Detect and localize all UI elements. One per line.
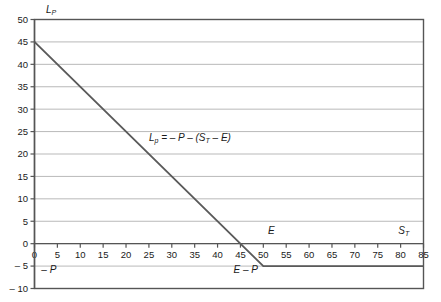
x-tick-label-35: 35 [189, 249, 200, 260]
x-tick-label-65: 65 [327, 249, 338, 260]
x-tick-label-60: 60 [304, 249, 315, 260]
annotation-premium-label: – P [40, 264, 56, 275]
x-tick-label-15: 15 [98, 249, 109, 260]
x-tick-label-85: 85 [418, 249, 429, 260]
x-tick-label-70: 70 [350, 249, 361, 260]
x-tick-label-50: 50 [258, 249, 269, 260]
x-tick-label-20: 20 [121, 249, 132, 260]
y-tick-label-40: 40 [17, 59, 28, 70]
x-tick-label-55: 55 [281, 249, 292, 260]
x-tick-label-80: 80 [395, 249, 406, 260]
y-tick-label-15: 15 [17, 171, 28, 182]
y-tick-label--5: – 5 [15, 260, 28, 271]
y-tick-label-0: 0 [23, 238, 28, 249]
annotation-strike-marker: E [268, 225, 275, 236]
y-tick-label-20: 20 [17, 148, 28, 159]
annotation-breakeven-label: E – P [234, 264, 259, 275]
chart-canvas: 0510152025303540455055606570758085 – 10–… [0, 0, 441, 302]
x-tick-label-5: 5 [55, 249, 60, 260]
x-tick-label-10: 10 [75, 249, 86, 260]
y-tick-label-25: 25 [17, 126, 28, 137]
x-tick-label-75: 75 [372, 249, 383, 260]
x-tick-label-25: 25 [144, 249, 155, 260]
payoff-chart: 0510152025303540455055606570758085 – 10–… [0, 0, 441, 302]
x-tick-label-40: 40 [212, 249, 223, 260]
x-tick-label-30: 30 [167, 249, 178, 260]
y-tick-label-35: 35 [17, 81, 28, 92]
y-tick-label-30: 30 [17, 104, 28, 115]
y-tick-label--10: – 10 [10, 283, 29, 294]
y-tick-label-5: 5 [23, 216, 28, 227]
x-tick-label-45: 45 [235, 249, 246, 260]
y-tick-label-45: 45 [17, 36, 28, 47]
y-tick-label-50: 50 [17, 14, 28, 25]
y-tick-label-10: 10 [17, 193, 28, 204]
